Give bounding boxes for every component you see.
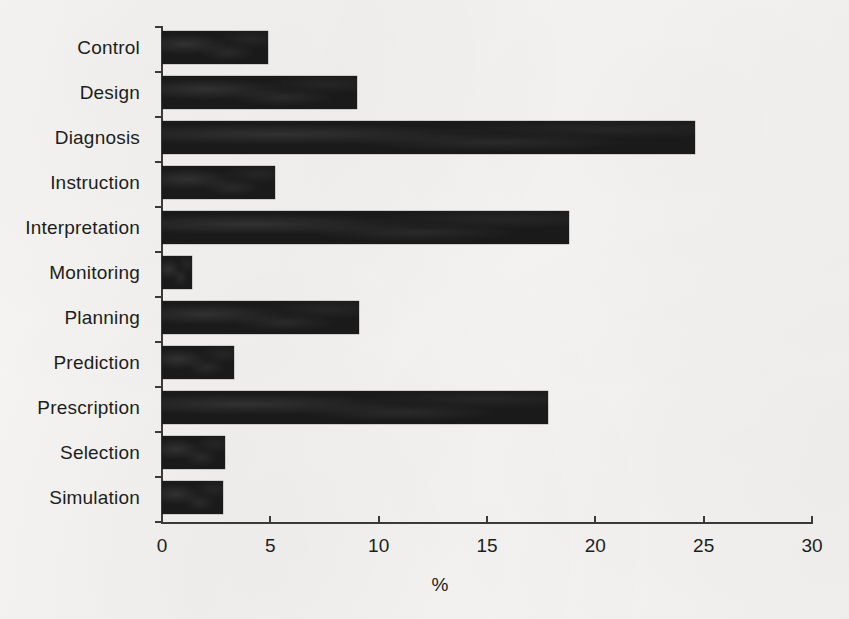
y-axis-tick xyxy=(155,206,163,208)
y-axis-tick xyxy=(155,71,163,73)
x-axis-title: % xyxy=(432,575,449,594)
y-axis-tick xyxy=(155,341,163,343)
category-label-selection: Selection xyxy=(0,443,151,462)
y-axis-tick xyxy=(155,296,163,298)
category-label-text: Simulation xyxy=(0,488,151,507)
x-axis-tick xyxy=(378,516,380,524)
bar-prescription xyxy=(162,391,548,424)
bar-monitoring xyxy=(162,256,192,289)
y-axis-tick xyxy=(155,431,163,433)
bar-design xyxy=(162,76,357,109)
bar-chart: ControlDesignDiagnosisInstructionInterpr… xyxy=(0,0,849,619)
category-label-diagnosis: Diagnosis xyxy=(0,128,151,147)
category-label-text: Instruction xyxy=(0,173,151,192)
y-axis-tick xyxy=(155,386,163,388)
category-label-text: Control xyxy=(0,38,151,57)
x-axis-tick-label: 15 xyxy=(476,536,497,555)
x-axis-tick xyxy=(161,516,163,524)
x-axis-tick-label: 20 xyxy=(585,536,606,555)
category-label-design: Design xyxy=(0,83,151,102)
bar-planning xyxy=(162,301,359,334)
x-axis-tick xyxy=(811,516,813,524)
category-label-monitoring: Monitoring xyxy=(0,263,151,282)
y-axis-tick xyxy=(155,26,163,28)
bar-simulation xyxy=(162,481,223,514)
x-axis-tick xyxy=(703,516,705,524)
category-label-interpretation: Interpretation xyxy=(0,218,151,237)
category-label-instruction: Instruction xyxy=(0,173,151,192)
category-label-text: Planning xyxy=(0,308,151,327)
chart-page: ControlDesignDiagnosisInstructionInterpr… xyxy=(0,0,849,619)
category-label-text: Interpretation xyxy=(0,218,151,237)
bar-selection xyxy=(162,436,225,469)
category-label-text: Prediction xyxy=(0,353,151,372)
category-label-text: Monitoring xyxy=(0,263,151,282)
bar-control xyxy=(162,31,268,64)
category-label-prediction: Prediction xyxy=(0,353,151,372)
y-axis-tick xyxy=(155,251,163,253)
category-label-text: Selection xyxy=(0,443,151,462)
category-label-planning: Planning xyxy=(0,308,151,327)
bar-instruction xyxy=(162,166,275,199)
category-label-text: Design xyxy=(0,83,151,102)
x-axis-tick-label: 0 xyxy=(157,536,168,555)
x-axis-tick xyxy=(594,516,596,524)
category-label-text: Diagnosis xyxy=(0,128,151,147)
y-axis-tick xyxy=(155,476,163,478)
category-label-text: Prescription xyxy=(0,398,151,417)
x-axis-tick-label: 5 xyxy=(265,536,276,555)
x-axis-tick xyxy=(486,516,488,524)
y-axis-tick xyxy=(155,161,163,163)
x-axis-tick-label: 30 xyxy=(801,536,822,555)
category-label-simulation: Simulation xyxy=(0,488,151,507)
bar-diagnosis xyxy=(162,121,695,154)
bar-prediction xyxy=(162,346,234,379)
category-label-control: Control xyxy=(0,38,151,57)
x-axis-tick-label: 10 xyxy=(368,536,389,555)
bar-interpretation xyxy=(162,211,569,244)
x-axis-tick xyxy=(269,516,271,524)
category-label-prescription: Prescription xyxy=(0,398,151,417)
x-axis-tick-label: 25 xyxy=(693,536,714,555)
y-axis-tick xyxy=(155,116,163,118)
